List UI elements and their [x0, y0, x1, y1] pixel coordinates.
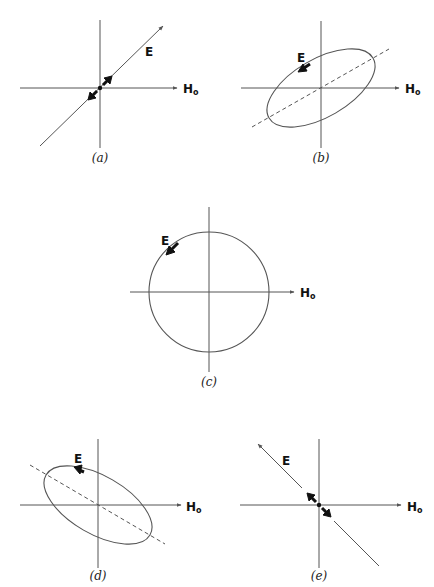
panel-b: E Ho (b) [241, 21, 421, 165]
e-label: E [161, 234, 169, 248]
panel-a: E Ho (a) [20, 20, 199, 165]
caption-e: (e) [311, 569, 328, 583]
panel-e: E Ho (e) [240, 439, 423, 583]
caption-a: (a) [92, 151, 109, 165]
h-label: Ho [183, 82, 199, 97]
rotation-arrow-icon [298, 64, 310, 72]
e-label: E [282, 454, 290, 468]
panel-c: E Ho (c) [130, 207, 316, 389]
h-label: Ho [405, 82, 421, 97]
e-label: E [74, 452, 82, 466]
h-label: Ho [407, 500, 423, 515]
h-label: Ho [300, 286, 316, 301]
polarization-diagrams: E Ho (a) E Ho (b) E Ho (c) [0, 0, 434, 587]
rotation-arrow-icon [74, 465, 84, 474]
panel-d: E Ho (d) [20, 439, 202, 583]
caption-d: (d) [89, 569, 106, 583]
origin-dot [317, 503, 321, 507]
e-field-line-upper [258, 444, 302, 488]
e-field-line-lower [334, 521, 379, 566]
e-field-line [40, 26, 163, 146]
caption-c: (c) [201, 375, 217, 389]
caption-b: (b) [312, 151, 329, 165]
h-label: Ho [186, 500, 202, 515]
origin-dot [98, 86, 102, 90]
e-label: E [145, 45, 153, 59]
e-label: E [297, 51, 305, 65]
